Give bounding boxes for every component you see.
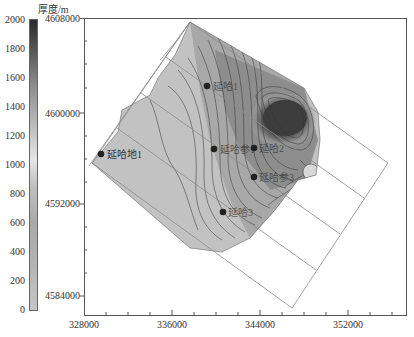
y-axis-ticks [80, 19, 87, 297]
well-dot-icon [251, 145, 258, 152]
well-label: 延哈参1 [220, 143, 255, 155]
well-dot-icon [220, 209, 227, 216]
well-dot-icon [204, 83, 211, 90]
well-label: 延哈参3 [259, 171, 294, 183]
well-label: 延哈3 [228, 206, 253, 218]
well-dot-icon [251, 174, 258, 181]
well-label: 延哈2 [259, 142, 284, 154]
x-axis-ticks [106, 310, 392, 315]
well-label: 延哈1 [213, 80, 238, 92]
thickness-surface [80, 15, 410, 315]
well-label: 延哈地1 [107, 148, 142, 160]
contour-map: 延哈地1 延哈1 延哈参1 延哈2 延哈参3 延哈3 [0, 0, 414, 337]
well-dot-icon [98, 151, 105, 158]
well-dot-icon [211, 146, 218, 153]
